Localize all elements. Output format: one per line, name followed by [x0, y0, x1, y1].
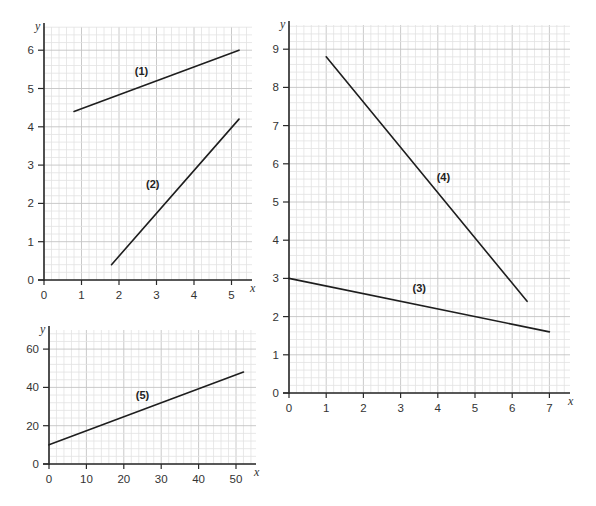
y-tick-label: 0 [273, 387, 279, 399]
series-label: (4) [437, 171, 451, 183]
x-tick-label: 2 [360, 402, 366, 414]
y-tick-label: 6 [273, 158, 279, 170]
y-tick-label: 2 [273, 311, 279, 323]
y-tick-label: 7 [273, 120, 279, 132]
y-tick-label: 0 [28, 274, 34, 286]
y-tick-label: 9 [273, 43, 279, 55]
x-axis-label: x [249, 281, 256, 295]
y-tick-label: 60 [26, 343, 39, 355]
x-tick-label: 3 [397, 402, 403, 414]
series-label: (3) [412, 282, 426, 294]
x-tick-label: 1 [323, 402, 329, 414]
series-label: (5) [136, 389, 150, 401]
y-axis-label: y [39, 322, 46, 336]
y-axis-label: y [34, 19, 41, 33]
x-tick-label: 0 [286, 402, 292, 414]
y-tick-label: 5 [273, 196, 279, 208]
y-tick-label: 0 [33, 458, 39, 470]
x-tick-label: 10 [80, 473, 93, 485]
x-tick-label: 40 [192, 473, 205, 485]
x-axis-label: x [253, 465, 260, 479]
x-tick-label: 1 [78, 289, 84, 301]
y-tick-label: 4 [28, 121, 35, 133]
y-tick-label: 20 [26, 420, 39, 432]
x-tick-label: 30 [155, 473, 168, 485]
x-tick-label: 2 [116, 289, 122, 301]
grid [49, 330, 256, 464]
x-tick-label: 6 [509, 402, 515, 414]
x-tick-label: 0 [41, 289, 47, 301]
x-tick-label: 3 [153, 289, 159, 301]
x-tick-label: 5 [472, 402, 478, 414]
chart-canvas: 0123450123456xy(1)(2) 012345670123456789… [0, 0, 596, 506]
series-label: (2) [146, 178, 160, 190]
y-tick-label: 3 [28, 159, 34, 171]
y-tick-label: 1 [28, 236, 34, 248]
series-label: (1) [135, 65, 149, 77]
x-tick-label: 4 [435, 402, 442, 414]
y-tick-label: 4 [273, 234, 280, 246]
y-tick-label: 2 [28, 197, 34, 209]
y-axis-label: y [279, 17, 286, 31]
graph-top-left: 0123450123456xy(1)(2) [28, 19, 256, 301]
x-tick-label: 0 [46, 473, 52, 485]
y-tick-label: 3 [273, 272, 279, 284]
grid [289, 25, 570, 393]
y-tick-label: 8 [273, 81, 279, 93]
y-tick-label: 40 [26, 381, 39, 393]
series-line-2 [112, 119, 240, 265]
x-tick-label: 7 [546, 402, 552, 414]
x-axis-label: x [567, 394, 574, 408]
x-tick-label: 20 [117, 473, 130, 485]
graph-right: 012345670123456789xy(3)(4) [273, 17, 574, 414]
x-tick-label: 5 [228, 289, 234, 301]
y-tick-label: 5 [28, 83, 34, 95]
y-tick-label: 6 [28, 44, 34, 56]
x-tick-label: 50 [230, 473, 243, 485]
x-tick-label: 4 [191, 289, 198, 301]
y-tick-label: 1 [273, 349, 279, 361]
graph-bottom-left: 010203040500204060xy(5) [26, 322, 260, 485]
